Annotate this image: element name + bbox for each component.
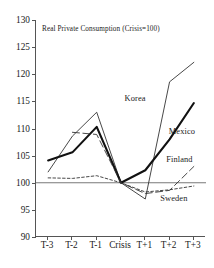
y-tick-label: 130 [4,15,30,25]
x-tick-mark [120,237,121,240]
y-tick-label: 115 [4,96,30,106]
x-tick-label: Crisis [109,240,131,250]
y-tick-label: 90 [4,232,30,242]
x-tick-mark [71,237,72,240]
y-tick-label: 120 [4,69,30,79]
y-tick-label: 110 [4,124,30,134]
x-tick-mark [169,237,170,240]
x-tick-mark [144,237,145,240]
x-tick-label: T+2 [161,240,177,250]
x-tick-label: T-2 [65,240,78,250]
x-tick-label: T+1 [136,240,152,250]
x-tick-mark [47,237,48,240]
y-tick-label: 95 [4,205,30,215]
x-tick-mark [193,237,194,240]
y-tick-mark [32,237,36,238]
series-line-mexico [48,103,194,183]
x-tick-mark [96,237,97,240]
y-tick-label: 125 [4,42,30,52]
y-tick-label: 105 [4,151,30,161]
chart-title: Real Private Consumption (Crisis=100) [42,25,160,34]
series-line-sweden [48,176,194,192]
x-tick-label: T+3 [185,240,201,250]
x-tick-label: T-1 [89,240,102,250]
x-tick-label: T-3 [41,240,54,250]
series-label-finland: Finland [166,155,192,164]
series-label-sweden: Sweden [160,193,187,202]
y-tick-label: 100 [4,178,30,188]
series-label-mexico: Mexico [169,126,195,135]
chart-figure: 9095100105110115120125130 T-3T-2T-1Crisi… [0,0,214,268]
series-label-korea: Korea [125,94,146,103]
